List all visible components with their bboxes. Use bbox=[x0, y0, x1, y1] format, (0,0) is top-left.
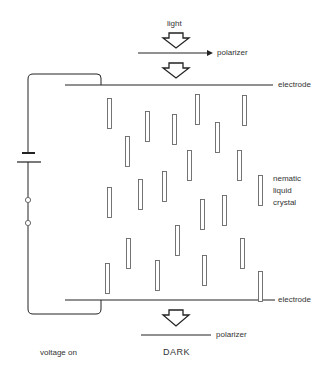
liquid-crystal-molecules bbox=[106, 95, 263, 302]
lc-molecule-rod bbox=[127, 239, 131, 269]
lc-molecule-rod bbox=[106, 264, 110, 294]
lcd-cell-diagram bbox=[0, 0, 332, 370]
bottom-polarizer-label: polarizer bbox=[216, 331, 247, 339]
lc-molecule-rod bbox=[163, 172, 167, 202]
lc-molecule-rod bbox=[126, 137, 130, 167]
lc-molecule-rod bbox=[108, 99, 112, 129]
transmitted-arrow-icon bbox=[163, 63, 189, 78]
lc-molecule-rod bbox=[176, 226, 180, 256]
lc-molecule-rod bbox=[241, 239, 245, 269]
top-electrode-label: electrode bbox=[278, 81, 311, 89]
lc-molecule-rod bbox=[259, 272, 263, 302]
lc-molecule-rod bbox=[238, 151, 242, 181]
lc-molecule-rod bbox=[259, 176, 263, 206]
lc-molecule-rod bbox=[223, 196, 227, 226]
output-arrow-icon bbox=[163, 310, 189, 326]
lc-molecule-rod bbox=[201, 200, 205, 230]
lc-molecule-rod bbox=[139, 180, 143, 210]
switch-contact-top bbox=[25, 197, 30, 202]
circuit-wire bbox=[28, 74, 101, 314]
polarizer-arrowhead-icon bbox=[207, 50, 213, 56]
lc-molecule-rod bbox=[156, 261, 160, 291]
switch-contact-bottom bbox=[25, 220, 30, 225]
lc-molecule-rod bbox=[216, 123, 220, 153]
output-state-label: DARK bbox=[163, 348, 190, 357]
lc-molecule-rod bbox=[173, 115, 177, 145]
nematic-label-line2: liquid bbox=[273, 187, 292, 195]
light-arrow-icon bbox=[163, 33, 189, 48]
lc-molecule-rod bbox=[243, 96, 247, 126]
lc-molecule-rod bbox=[188, 151, 192, 181]
lc-molecule-rod bbox=[203, 256, 207, 286]
bottom-electrode-label: electrode bbox=[278, 296, 311, 304]
lc-molecule-rod bbox=[196, 95, 200, 125]
nematic-label-line1: nematic bbox=[273, 175, 301, 183]
lc-molecule-rod bbox=[146, 112, 150, 142]
nematic-label-line3: crystal bbox=[273, 199, 296, 207]
voltage-state-label: voltage on bbox=[40, 349, 77, 357]
lc-molecule-rod bbox=[108, 188, 112, 218]
top-polarizer-label: polarizer bbox=[217, 49, 248, 57]
light-label: light bbox=[167, 20, 182, 28]
